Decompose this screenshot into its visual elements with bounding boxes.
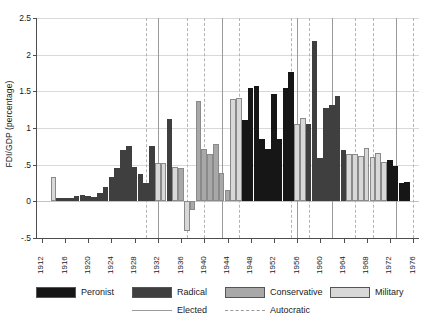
regime-line-elected-1932 — [158, 18, 159, 238]
bar-1956 — [294, 124, 300, 201]
x-tick-label-2: 1920 — [84, 256, 92, 274]
x-tick-label-5: 1932 — [153, 256, 161, 274]
y-tickmark-0 — [33, 238, 36, 239]
bar-1973 — [393, 166, 399, 201]
bar-1948 — [248, 88, 254, 202]
bar-1916 — [62, 198, 68, 202]
legend-regimes-row: ElectedAutocratic — [0, 302, 424, 318]
legend-item-autocratic: Autocratic — [225, 302, 310, 318]
y-tick-label-6: 2.5 — [19, 14, 31, 23]
y-gridline — [36, 128, 419, 129]
bar-1974 — [399, 183, 405, 201]
regime-line-autocratic-1976 — [413, 18, 414, 238]
bar-1941 — [207, 154, 213, 201]
y-axis-line — [36, 18, 37, 238]
bar-1949 — [254, 86, 260, 201]
x-tickmark-5 — [158, 239, 159, 243]
x-tickmark-1 — [65, 239, 66, 243]
fdi-gdp-bar-chart: FDI/GDP (percentage) -.50.511.522.519121… — [0, 0, 424, 321]
bar-1927 — [126, 146, 132, 202]
bar-1971 — [381, 162, 387, 201]
y-tick-label-0: -.5 — [21, 234, 31, 243]
bar-1920 — [85, 196, 91, 201]
bar-1970 — [375, 153, 381, 201]
bar-1975 — [404, 182, 410, 201]
legend-item-peronist: Peronist — [36, 284, 114, 300]
x-tick-label-1: 1916 — [61, 256, 69, 274]
bar-1940 — [201, 149, 207, 202]
x-tickmark-8 — [228, 239, 229, 243]
bar-1922 — [97, 193, 103, 201]
regime-line-autocratic-1969 — [373, 18, 374, 238]
y-tickmark-5 — [33, 55, 36, 56]
bar-1936 — [178, 168, 184, 202]
bar-1933 — [161, 163, 167, 201]
bar-1924 — [109, 177, 115, 201]
bar-1917 — [68, 198, 74, 201]
x-tick-label-0: 1912 — [37, 256, 45, 274]
bar-1958 — [306, 124, 312, 201]
x-tick-label-11: 1956 — [293, 256, 301, 274]
legend-item-radical: Radical — [132, 284, 207, 300]
legend-parties-row: PeronistRadicalConservativeMilitary — [0, 284, 424, 300]
x-tick-label-4: 1928 — [130, 256, 138, 274]
regime-line-autocratic-1966 — [355, 18, 356, 238]
regime-line-elected-1943 — [222, 18, 223, 238]
x-tickmark-6 — [181, 239, 182, 243]
bar-1931 — [149, 146, 155, 201]
x-tickmark-0 — [42, 239, 43, 243]
y-tickmark-6 — [33, 18, 36, 19]
x-tick-label-8: 1944 — [223, 256, 231, 274]
y-tickmark-2 — [33, 165, 36, 166]
y-gridline — [36, 18, 419, 19]
bar-1959 — [312, 41, 318, 202]
bar-1934 — [167, 119, 173, 201]
bar-1946 — [236, 98, 242, 201]
bar-1918 — [74, 196, 80, 201]
y-tickmark-3 — [33, 128, 36, 129]
bar-1951 — [265, 149, 271, 202]
x-tick-label-3: 1924 — [107, 256, 115, 274]
bar-1943 — [219, 173, 225, 202]
y-tickmark-1 — [33, 201, 36, 202]
x-tick-label-9: 1948 — [246, 256, 254, 274]
bar-1972 — [387, 160, 393, 201]
x-tickmark-3 — [111, 239, 112, 243]
bar-1957 — [300, 118, 306, 202]
x-tick-label-14: 1968 — [362, 256, 370, 274]
x-tickmark-4 — [135, 239, 136, 243]
bar-1928 — [132, 167, 138, 201]
regime-line-autocratic-1930 — [146, 18, 147, 238]
legend-line-elected — [132, 310, 172, 311]
bar-1930 — [143, 183, 149, 201]
legend-swatch-radical — [132, 287, 172, 298]
bar-1935 — [172, 167, 178, 201]
x-tickmark-9 — [251, 239, 252, 243]
x-tickmark-11 — [297, 239, 298, 243]
bar-1925 — [114, 168, 120, 201]
x-tick-label-16: 1976 — [409, 256, 417, 274]
bar-1923 — [103, 187, 109, 201]
bar-1926 — [120, 150, 126, 201]
bar-1952 — [271, 94, 277, 202]
y-tick-label-5: 2 — [26, 50, 31, 59]
y-tick-label-1: 0 — [26, 197, 31, 206]
legend-label-conservative: Conservative — [270, 287, 323, 297]
x-tickmark-10 — [274, 239, 275, 243]
x-tickmark-15 — [390, 239, 391, 243]
legend-item-elected: Elected — [132, 302, 207, 318]
bar-1963 — [335, 96, 341, 201]
legend-swatch-military — [330, 287, 370, 298]
y-tickmark-4 — [33, 91, 36, 92]
regime-line-elected-1973 — [396, 18, 397, 238]
bar-1967 — [358, 156, 364, 201]
y-tick-label-3: 1 — [26, 124, 31, 133]
y-axis-title: FDI/GDP (percentage) — [1, 0, 17, 248]
legend-item-military: Military — [330, 284, 404, 300]
x-tick-label-12: 1960 — [316, 256, 324, 274]
x-tick-label-10: 1952 — [269, 256, 277, 274]
x-tick-label-7: 1940 — [200, 256, 208, 274]
legend-line-autocratic — [225, 310, 265, 311]
x-tickmark-7 — [204, 239, 205, 243]
bar-1969 — [370, 157, 376, 201]
